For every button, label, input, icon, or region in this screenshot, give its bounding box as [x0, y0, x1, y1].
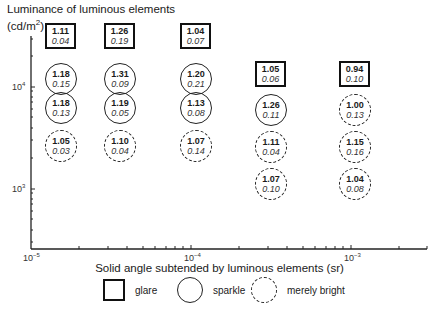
legend-item-sparkle: sparkle [177, 277, 245, 303]
legend-item-glare: glare [103, 279, 157, 301]
merely-bright-marker: 1.000.13 [339, 94, 371, 126]
glare-marker: 1.260.19 [104, 23, 135, 49]
merely-bright-marker: 1.050.03 [45, 130, 77, 162]
glare-marker: 1.050.06 [255, 61, 286, 87]
sparkle-circle-icon [177, 277, 203, 303]
merely-bright-marker: 1.110.04 [255, 131, 287, 163]
sparkle-marker: 1.180.13 [45, 92, 77, 124]
merely-bright-dashed-circle-icon [251, 277, 277, 303]
sparkle-marker: 1.310.09 [104, 63, 136, 95]
legend-label-sparkle: sparkle [213, 285, 245, 296]
glare-marker: 0.940.10 [339, 61, 370, 87]
sparkle-marker: 1.260.11 [255, 94, 287, 126]
sparkle-marker: 1.130.08 [180, 92, 212, 124]
legend-item-merely-bright: merely bright [251, 277, 345, 303]
merely-bright-marker: 1.070.14 [180, 130, 212, 162]
merely-bright-marker: 1.150.16 [339, 131, 371, 163]
sparkle-marker: 1.180.15 [45, 63, 77, 95]
merely-bright-marker: 1.070.10 [255, 168, 287, 200]
x-axis-title: Solid angle subtended by luminous elemen… [0, 262, 439, 274]
legend-label-merely-bright: merely bright [287, 285, 345, 296]
legend-label-glare: glare [135, 285, 157, 296]
y-tick-label-10e4: 104 [12, 81, 25, 92]
sparkle-marker: 1.190.05 [104, 92, 136, 124]
glare-marker: 1.040.07 [180, 23, 211, 49]
sparkle-marker: 1.200.21 [180, 63, 212, 95]
merely-bright-marker: 1.100.04 [104, 130, 136, 162]
glare-square-icon [103, 279, 125, 301]
y-tick-label-10e3: 103 [12, 183, 25, 194]
glare-marker: 1.110.04 [45, 23, 76, 49]
merely-bright-marker: 1.040.08 [339, 168, 371, 200]
